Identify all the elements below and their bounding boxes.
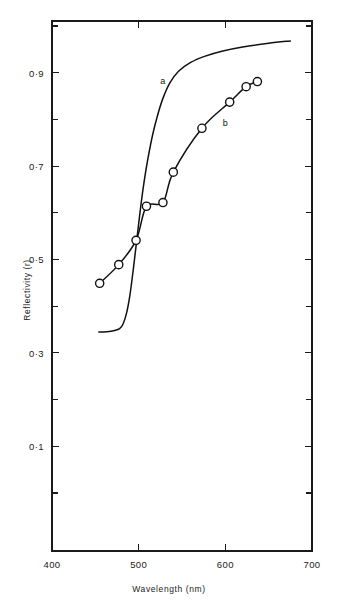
data-point-marker [142,202,150,210]
data-point-marker [253,77,261,85]
series-group [96,41,291,332]
data-point-marker [198,124,206,132]
data-point-marker [242,83,250,91]
curve-b-label: b [223,118,228,128]
axes-box [52,21,312,551]
x-axis-title: Wavelength (nm) [132,584,205,594]
data-point-marker [132,236,140,244]
y-axis-ticks [52,26,59,493]
reflectivity-plot: 0·9 0·7 0·5 0·3 0·1 400 500 600 700 Wave… [0,0,338,606]
y-tick-label-0-1: 0·1 [29,441,44,452]
curve-b-markers [96,77,262,287]
x-axis-ticks [139,21,226,551]
y-tick-label-0-7: 0·7 [29,161,44,172]
y-axis-right-ticks [305,26,312,493]
plot-frame [52,21,312,551]
x-tick-label-400: 400 [43,559,60,570]
y-tick-label-0-9: 0·9 [29,68,44,79]
curve-a [99,41,291,332]
data-point-marker [226,98,234,106]
data-point-marker [96,279,104,287]
curve-a-label: a [160,76,165,86]
y-tick-label-0-3: 0·3 [29,348,44,359]
data-point-marker [115,261,123,269]
chart-figure: 0·9 0·7 0·5 0·3 0·1 400 500 600 700 Wave… [0,0,338,606]
x-tick-label-500: 500 [130,559,147,570]
curve-b [100,82,258,284]
x-tick-label-600: 600 [217,559,234,570]
x-tick-label-700: 700 [303,559,320,570]
data-point-marker [169,168,177,176]
y-axis-title: Reflectivity (r) [22,259,32,321]
data-point-marker [159,198,167,206]
